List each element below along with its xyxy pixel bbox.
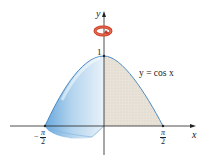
rotation-arrow-icon (95, 27, 111, 35)
x-tick-left-sign: − (34, 133, 39, 141)
x-axis-arrow-icon (190, 124, 196, 128)
y-axis-label: y (96, 9, 100, 19)
x-tick-left: π 2 (40, 129, 46, 146)
function-label: y = cos x (139, 69, 174, 79)
point-peak (103, 55, 105, 57)
y-axis-arrow-icon (102, 11, 106, 17)
y-tick-1: 1 (97, 48, 102, 57)
solid-of-revolution-diagram (0, 0, 206, 159)
x-tick-right: π 2 (160, 129, 166, 146)
shaded-region (104, 56, 163, 126)
point-left (44, 125, 46, 127)
point-right (162, 125, 164, 127)
x-axis-label: x (192, 130, 196, 140)
